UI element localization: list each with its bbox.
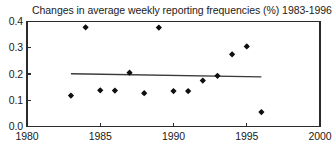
data-point-core [142, 91, 146, 95]
y-tick-label: 0.2 [9, 68, 24, 80]
data-point-core [245, 45, 249, 49]
x-tick-label: 1995 [235, 130, 258, 142]
chart-canvas: Changes in average weekly reporting freq… [0, 0, 333, 150]
screenshot-root: Changes in average weekly reporting freq… [0, 0, 333, 150]
x-tick-label: 2000 [309, 130, 332, 142]
data-point-core [69, 94, 73, 98]
x-tick-label: 1980 [16, 130, 39, 142]
chart-title: Changes in average weekly reporting freq… [32, 4, 332, 16]
data-point-core [98, 88, 102, 92]
data-point-core [216, 74, 220, 78]
chart-figure: Changes in average weekly reporting freq… [0, 0, 333, 150]
x-tick-label: 1985 [89, 130, 112, 142]
data-point-core [201, 79, 205, 83]
y-tick-label: 0.3 [9, 41, 24, 53]
data-point-core [230, 52, 234, 56]
data-point-core [186, 89, 190, 93]
data-point-core [157, 26, 161, 30]
data-point-core [113, 89, 117, 93]
y-tick-label: 0.1 [9, 94, 24, 106]
data-point-core [84, 25, 88, 29]
x-tick-label: 1990 [162, 130, 185, 142]
data-point-core [128, 71, 132, 75]
data-point-core [172, 89, 176, 93]
data-point-core [260, 110, 264, 114]
y-tick-label: 0.4 [9, 15, 24, 27]
